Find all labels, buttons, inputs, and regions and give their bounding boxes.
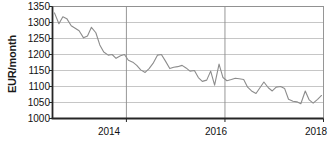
plot-frame <box>52 7 324 119</box>
data-line-series <box>54 13 321 104</box>
chart-figure: EUR/month 1350 1300 1250 1200 1150 1100 … <box>0 0 336 152</box>
plot-area <box>0 0 336 152</box>
x-tick-label: 2014 <box>89 126 129 137</box>
x-tick-label: 2016 <box>196 126 236 137</box>
x-tick-label: 2018 <box>296 126 336 137</box>
gridlines <box>53 7 324 119</box>
axis-ticks <box>49 7 324 123</box>
